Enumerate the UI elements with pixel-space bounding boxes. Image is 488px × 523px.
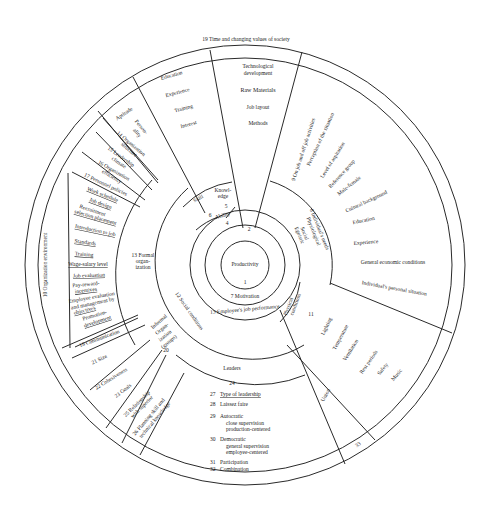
divider-union xyxy=(287,345,375,440)
raw-materials: Raw Materials xyxy=(240,87,276,93)
music: Music xyxy=(390,367,404,382)
experience-r: Experience xyxy=(353,238,379,246)
policies-list: Work schedule Job design Recruitment sel… xyxy=(68,185,119,328)
leaders-label: Leaders xyxy=(223,365,240,371)
divider-top-right xyxy=(255,52,302,228)
leadership-item-number: 29 xyxy=(210,413,216,419)
ability-number: 4 xyxy=(226,220,229,226)
education-r: Education xyxy=(352,215,375,226)
productivity-label: Productivity xyxy=(231,261,258,267)
policy-item: Standards xyxy=(74,238,96,247)
education: Education xyxy=(160,69,183,81)
personal-situation: Individual's personal situation xyxy=(361,279,427,296)
productivity-number: 1 xyxy=(244,279,247,285)
divider-top-left xyxy=(210,50,243,228)
leadership-item: Autocratic xyxy=(220,413,244,419)
leadership-item-number: 28 xyxy=(210,401,216,407)
training: Training xyxy=(174,103,194,114)
union-number: 33 xyxy=(354,440,362,448)
leadership-item-number: 30 xyxy=(210,436,216,442)
wedge-number-2: 2 xyxy=(248,226,251,232)
informal-number: 20 xyxy=(163,347,169,353)
policy-item: Introduction to job xyxy=(75,223,117,237)
leaders-number: 24 xyxy=(229,380,235,386)
skill-number: 6 xyxy=(209,212,212,218)
leadership-item: Laissez faire xyxy=(220,401,248,407)
skill: Skill xyxy=(192,193,204,204)
rest-periods: Rest periods xyxy=(358,349,379,375)
cultural-background: Cultural background xyxy=(344,189,388,214)
physical-number: 11 xyxy=(308,311,314,317)
aptitude: Aptitude xyxy=(114,105,134,121)
formal-org-3: ization xyxy=(136,264,151,270)
safety: Safety xyxy=(376,361,390,376)
leadership-item: employee-centered xyxy=(226,449,268,455)
interest: Interest xyxy=(180,119,198,129)
society-label: 19 Time and changing values of society xyxy=(202,36,290,42)
policy-item: Training xyxy=(75,250,94,257)
tech-line-2: development xyxy=(244,70,273,76)
job-performance-diagram: 19 Time and changing values of society 1… xyxy=(0,0,488,523)
ventilation: Ventilation xyxy=(341,338,359,362)
leadership-item: Type of leadership xyxy=(220,391,261,397)
size: 21 Size xyxy=(90,353,108,366)
policy-item: Wage-salary level xyxy=(68,261,108,267)
leadership-list: 27Type of leadership28Laissez faire29Aut… xyxy=(210,391,271,472)
leadership-item: Combination xyxy=(220,466,249,472)
experience: Experience xyxy=(165,86,191,98)
leadership-item-number: 31 xyxy=(210,459,216,465)
tech-line-1: Technological xyxy=(242,63,274,69)
leadership-item: production-centered xyxy=(226,426,271,432)
leadership-item-number: 32 xyxy=(210,466,216,472)
union-label: Union xyxy=(319,387,331,402)
leadership-item-number: 27 xyxy=(210,391,216,397)
job-layout: Job layout xyxy=(247,104,270,110)
policy-item: Job evaluation xyxy=(73,271,105,278)
motivation-label: 7 Motivation xyxy=(231,293,260,299)
knowledge-2: edge xyxy=(218,193,229,199)
economic-conditions: General economic conditions xyxy=(361,259,425,265)
leadership-item: Democratic xyxy=(220,436,246,442)
lighting: Lighting xyxy=(319,316,333,336)
divider-individual xyxy=(330,283,452,333)
divider-physical xyxy=(280,310,345,464)
knowledge-number: 5 xyxy=(225,203,228,209)
leadership-item: Participation xyxy=(220,459,248,465)
org-environment-label: 10 Organization environment xyxy=(42,232,48,297)
temperature: Temperature xyxy=(331,323,350,351)
methods: Methods xyxy=(248,120,267,126)
ability: Ability xyxy=(214,210,231,220)
goals: 23 Goals xyxy=(113,382,132,399)
